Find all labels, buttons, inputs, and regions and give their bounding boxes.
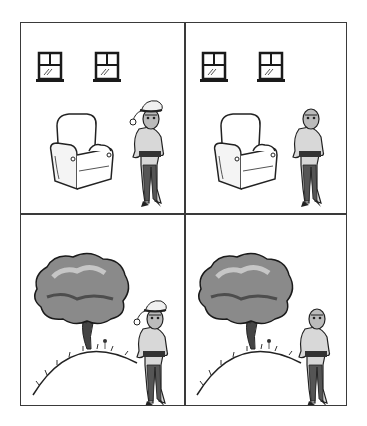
- boy-figure: [293, 109, 324, 207]
- tree-icon: [199, 253, 293, 349]
- boy-figure: [137, 309, 168, 405]
- window-icon: [93, 53, 121, 82]
- boy-figure: [133, 109, 164, 207]
- panel-divider-horizontal: [21, 213, 346, 215]
- hill-icon: [197, 339, 301, 395]
- window-icon: [200, 53, 228, 82]
- window-icon: [36, 53, 64, 82]
- armchair-icon: [51, 114, 113, 189]
- panel-top-right: [185, 23, 348, 213]
- tree-icon: [35, 253, 129, 349]
- boy-figure: [299, 309, 330, 405]
- armchair-icon: [215, 114, 277, 189]
- hill-icon: [33, 339, 137, 395]
- panel-bottom-left: [21, 215, 184, 405]
- comic-grid: [20, 22, 347, 406]
- window-icon: [257, 53, 285, 82]
- panel-top-left: [21, 23, 184, 213]
- panel-bottom-right: [185, 215, 348, 405]
